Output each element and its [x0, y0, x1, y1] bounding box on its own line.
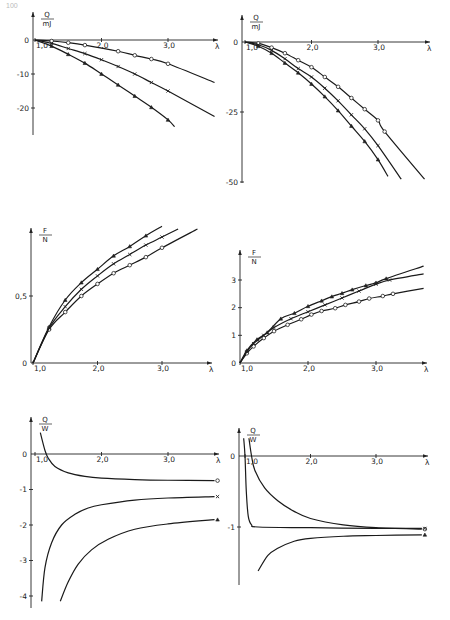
y-tick-label: -25 — [226, 108, 238, 117]
marker-circle-icon — [116, 49, 120, 53]
x-tick-label: 3,0 — [163, 41, 175, 50]
y-tick-label: -50 — [226, 178, 238, 187]
marker-circle-icon — [160, 246, 164, 250]
x-tick-label: 3,0 — [373, 43, 385, 52]
marker-circle-icon — [166, 62, 170, 66]
x-tick-label: 3,0 — [157, 364, 169, 373]
x-axis-label: λ — [209, 365, 214, 374]
marker-cross-icon — [350, 113, 353, 116]
marker-cross-icon — [310, 75, 313, 78]
y-tick-label: 0 — [231, 359, 236, 368]
marker-cross-icon — [216, 495, 219, 498]
marker-circle-icon — [286, 323, 290, 327]
x-tick-label: 2,0 — [306, 457, 318, 466]
y-tick-label: 0 — [22, 359, 27, 368]
y-tick-label: -20 — [17, 104, 29, 113]
svg-text:F: F — [43, 227, 47, 235]
x-tick-label: 3,0 — [163, 455, 175, 464]
marker-cross-icon — [283, 57, 286, 60]
y-axis-label: FN — [248, 249, 261, 266]
x-tick-label: 2,0 — [93, 364, 105, 373]
y-tick-label: -1 — [20, 485, 28, 494]
svg-text:W: W — [42, 425, 49, 433]
chart-top-left: 1,02,03,0λ0-10-20QmJ — [17, 11, 220, 135]
marker-cross-icon — [323, 87, 326, 90]
marker-circle-icon — [376, 119, 380, 123]
svg-text:mJ: mJ — [252, 23, 261, 31]
x-axis-label: λ — [425, 458, 430, 467]
marker-cross-icon — [64, 305, 67, 308]
y-tick-label: 2 — [231, 303, 236, 312]
marker-circle-icon — [80, 294, 84, 298]
marker-circle-icon — [144, 255, 148, 259]
x-tick-label: 1,0 — [241, 364, 253, 373]
x-tick-label: 2,0 — [303, 364, 315, 373]
x-tick-label: 2,0 — [307, 43, 319, 52]
y-axis-arrow-icon — [238, 250, 242, 255]
svg-text:N: N — [251, 258, 256, 266]
marker-cross-icon — [80, 288, 83, 291]
svg-text:Q: Q — [42, 416, 48, 424]
curve-triangle — [240, 266, 424, 363]
x-tick-label: 3,0 — [371, 364, 383, 373]
x-tick-label: 1,0 — [36, 455, 48, 464]
y-tick-label: 0 — [22, 450, 27, 459]
chart-bottom-left: 1,02,03,0λ0-1-2-3-4QW — [20, 416, 221, 608]
curve-circle — [245, 42, 425, 179]
marker-circle-icon — [310, 65, 314, 69]
marker-circle-icon — [299, 317, 303, 321]
y-axis-arrow-icon — [240, 15, 244, 20]
svg-text:Q: Q — [253, 14, 259, 22]
y-tick-label: -3 — [20, 556, 28, 565]
svg-text:N: N — [42, 236, 47, 244]
marker-circle-icon — [112, 271, 116, 275]
marker-cross-icon — [376, 144, 379, 147]
marker-cross-icon — [337, 99, 340, 102]
y-tick-label: -2 — [20, 521, 28, 530]
marker-circle-icon — [333, 306, 337, 310]
y-tick-label: 0,5 — [15, 292, 27, 301]
chart-middle-right: 1,02,03,0λ0123FN — [231, 249, 429, 374]
svg-text:F: F — [252, 249, 256, 257]
curve-cross — [240, 274, 424, 363]
marker-circle-icon — [391, 292, 395, 296]
svg-text:Q: Q — [250, 427, 256, 435]
y-tick-label: 0 — [230, 452, 235, 461]
marker-cross-icon — [96, 274, 99, 277]
chart-middle-left: 1,02,03,0λ00,5FN — [15, 226, 214, 374]
curve-cross — [244, 438, 422, 528]
y-tick-label: 0 — [233, 38, 238, 47]
y-axis-arrow-icon — [29, 417, 33, 422]
svg-text:Q: Q — [44, 11, 50, 19]
marker-circle-icon — [350, 96, 354, 100]
marker-circle-icon — [283, 51, 287, 55]
marker-circle-icon — [150, 57, 154, 61]
svg-text:W: W — [250, 436, 257, 444]
x-axis-label: λ — [427, 44, 432, 53]
marker-circle-icon — [363, 107, 367, 111]
curve-circle — [240, 288, 424, 363]
chart-top-right: 1,02,03,0λ0-25-50QmJ — [226, 14, 432, 187]
marker-triangle-icon — [423, 533, 427, 536]
marker-circle-icon — [310, 313, 314, 317]
marker-circle-icon — [336, 85, 340, 89]
x-axis-label: λ — [424, 365, 429, 374]
marker-cross-icon — [297, 67, 300, 70]
marker-circle-icon — [367, 297, 371, 301]
marker-circle-icon — [83, 43, 87, 47]
marker-circle-icon — [357, 300, 361, 304]
chart-bottom-right: 1,02,03,0λ0-1QW — [228, 427, 430, 585]
x-tick-label: 2,0 — [97, 455, 109, 464]
x-axis-label: λ — [215, 42, 220, 51]
marker-circle-icon — [66, 41, 70, 45]
curve-cross — [42, 497, 215, 602]
marker-cross-icon — [112, 262, 115, 265]
marker-circle-icon — [296, 58, 300, 62]
marker-circle-icon — [216, 479, 220, 483]
y-tick-label: 0 — [24, 36, 29, 45]
curve-triangle — [258, 535, 422, 571]
curve-cross — [33, 229, 178, 363]
x-tick-label: 3,0 — [371, 457, 383, 466]
marker-circle-icon — [272, 329, 276, 333]
marker-circle-icon — [96, 282, 100, 286]
